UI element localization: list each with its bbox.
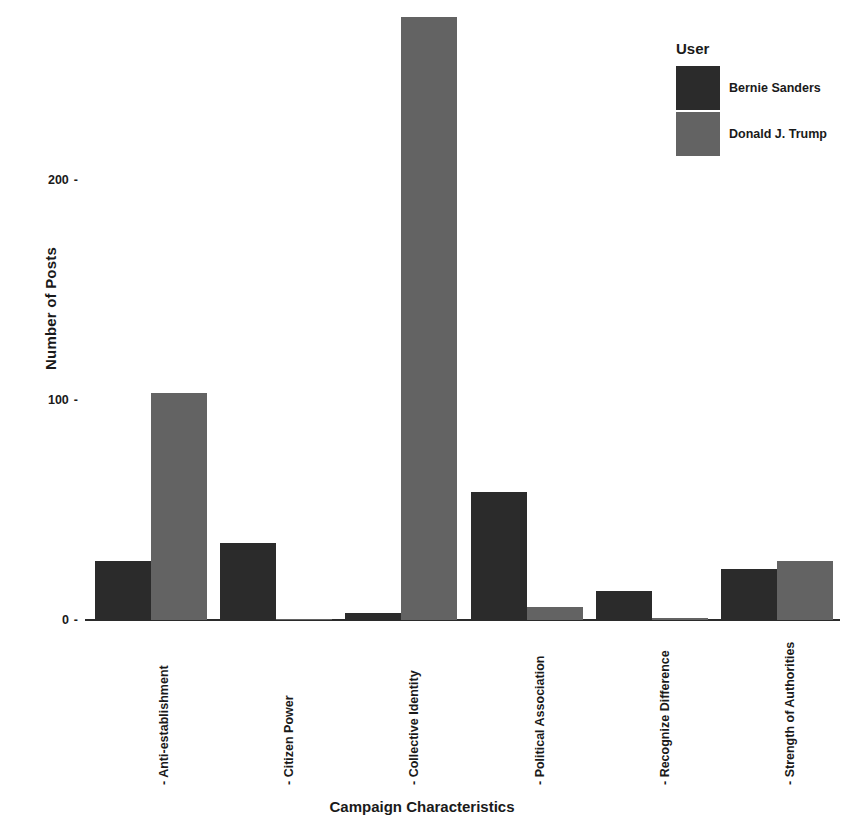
y-tick-200: 200- <box>18 173 78 187</box>
bar-citizen-power-bernie-sanders <box>220 543 276 620</box>
legend-entries: Bernie SandersDonald J. Trump <box>676 66 827 156</box>
chart-figure: Number of Posts 0-100-200- - Anti-establ… <box>0 0 844 836</box>
x-tick-label-anti-establishment: - Anti-establishment <box>157 665 171 785</box>
x-axis-title: Campaign Characteristics <box>0 798 844 815</box>
x-tick-label-political-association: - Political Association <box>533 656 547 785</box>
legend-entry-bernie-sanders[interactable]: Bernie Sanders <box>676 66 827 110</box>
bar-recognize-difference-bernie-sanders <box>596 591 652 620</box>
bar-strength-of-authorities-bernie-sanders <box>721 569 777 620</box>
bar-anti-establishment-donald-j-trump <box>151 393 207 620</box>
bar-political-association-donald-j-trump <box>527 607 583 620</box>
plot-area: Number of Posts 0-100-200- - Anti-establ… <box>0 0 844 836</box>
legend-label: Bernie Sanders <box>729 81 821 95</box>
legend-label: Donald J. Trump <box>729 127 827 141</box>
y-axis-title: Number of Posts <box>42 199 59 419</box>
bar-political-association-bernie-sanders <box>471 492 527 620</box>
bar-anti-establishment-bernie-sanders <box>95 561 151 620</box>
y-tick-100: 100- <box>18 393 78 407</box>
bar-collective-identity-bernie-sanders <box>345 613 401 620</box>
x-tick-label-recognize-difference: - Recognize Difference <box>658 650 672 785</box>
bar-strength-of-authorities-donald-j-trump <box>777 561 833 620</box>
x-tick-label-citizen-power: - Citizen Power <box>282 695 296 785</box>
legend: User Bernie SandersDonald J. Trump <box>676 40 827 158</box>
bar-collective-identity-donald-j-trump <box>401 17 457 620</box>
x-tick-label-strength-of-authorities: - Strength of Authorities <box>783 642 797 785</box>
legend-swatch-icon <box>676 66 720 110</box>
y-tick-0: 0- <box>18 613 78 627</box>
legend-entry-donald-j-trump[interactable]: Donald J. Trump <box>676 112 827 156</box>
bar-recognize-difference-donald-j-trump <box>652 618 708 620</box>
legend-title: User <box>676 40 827 57</box>
legend-swatch-icon <box>676 112 720 156</box>
bar-citizen-power-donald-j-trump <box>276 619 332 621</box>
x-tick-label-collective-identity: - Collective Identity <box>407 670 421 785</box>
